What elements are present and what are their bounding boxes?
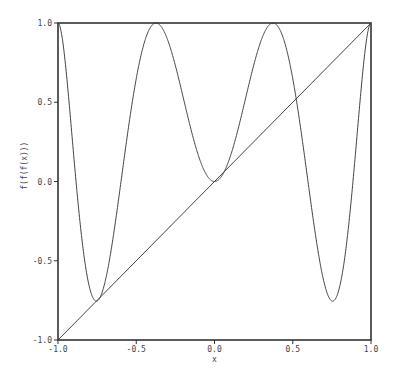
y-tick-label: 1.0	[38, 19, 53, 28]
x-tick-label: 0.5	[286, 345, 301, 354]
y-tick-label: 0.0	[38, 178, 53, 187]
y-axis: -1.0-0.50.00.51.0	[33, 19, 58, 345]
plot-area	[58, 23, 371, 340]
y-tick-label: 0.5	[38, 98, 53, 107]
y-tick-label: -0.5	[33, 257, 52, 266]
series-identity-line	[58, 23, 371, 340]
x-tick-label: -0.5	[127, 345, 146, 354]
x-tick-label: -1.0	[48, 345, 67, 354]
x-tick-label: 1.0	[364, 345, 379, 354]
series-fff-curve	[58, 23, 371, 301]
y-tick-label: -1.0	[33, 336, 52, 345]
x-axis-label: x	[212, 355, 217, 364]
x-axis: -1.0-0.50.00.51.0	[48, 340, 378, 354]
y-axis-label: f(f(f(x)))	[20, 142, 29, 190]
chart: -1.0-0.50.00.51.0 -1.0-0.50.00.51.0 x f(…	[0, 0, 398, 378]
x-tick-label: 0.0	[207, 345, 222, 354]
